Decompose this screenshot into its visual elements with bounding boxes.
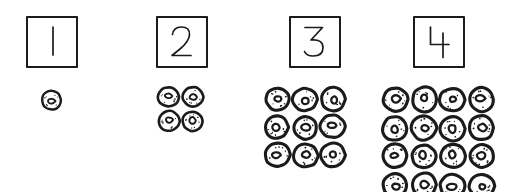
cell-icon [381, 85, 410, 114]
square-numbers-figure: Square numbers shown as square arrays of… [0, 0, 520, 192]
cell-icon [467, 142, 496, 171]
cell-icon [467, 114, 496, 143]
panel-4: 416 [0, 0, 520, 192]
cell-icon [381, 142, 410, 171]
cell-icon [410, 171, 439, 193]
cell-grid-4 [381, 85, 495, 185]
number-glyph-4 [415, 18, 463, 66]
cell-icon [438, 142, 467, 171]
number-box-4: 4 [413, 16, 465, 68]
cell-icon [438, 114, 467, 143]
cell-icon [381, 114, 410, 143]
cell-icon [467, 171, 496, 193]
cell-icon [381, 171, 410, 193]
cell-icon [410, 85, 439, 114]
cell-icon [438, 85, 467, 114]
cell-icon [438, 171, 467, 193]
cell-icon [410, 142, 439, 171]
cell-icon [467, 85, 496, 114]
cell-icon [410, 114, 439, 143]
